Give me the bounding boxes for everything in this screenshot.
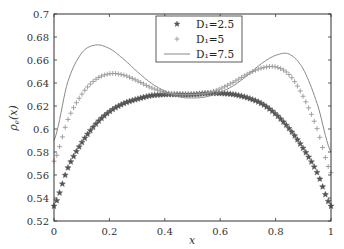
x-tick-label: 0.6 — [212, 226, 228, 237]
y-tick-label: 0.62 — [27, 101, 49, 112]
star-marker — [76, 144, 82, 150]
plus-marker — [102, 72, 107, 77]
star-marker — [325, 198, 331, 204]
plus-marker — [295, 84, 300, 89]
legend-label: D₁=5 — [196, 33, 224, 45]
x-tick-label: 0.4 — [157, 226, 173, 237]
y-tick-label: 0.7 — [33, 9, 49, 20]
line-chart: 00.20.40.60.810.520.540.560.580.60.620.6… — [0, 0, 344, 249]
y-tick-label: 0.56 — [27, 170, 49, 181]
star-marker — [303, 149, 309, 155]
plus-marker — [217, 87, 222, 92]
plus-marker — [77, 96, 82, 101]
star-marker — [317, 176, 323, 182]
y-tick-label: 0.52 — [27, 216, 49, 227]
plus-marker — [317, 135, 322, 140]
plus-marker — [121, 73, 126, 78]
plus-marker — [312, 119, 317, 124]
y-tick-label: 0.54 — [27, 193, 49, 204]
plus-marker — [301, 94, 306, 99]
plus-marker — [65, 117, 70, 122]
plus-marker — [326, 164, 331, 169]
y-tick-label: 0.58 — [27, 147, 49, 158]
plus-marker — [105, 72, 110, 77]
plus-marker — [79, 92, 84, 97]
y-axis-label: ρe(x) — [7, 105, 21, 131]
x-tick-label: 0.2 — [101, 226, 117, 237]
y-tick-label: 0.6 — [33, 124, 49, 135]
plus-marker — [287, 72, 292, 77]
plus-marker — [82, 88, 87, 93]
star-marker — [314, 169, 320, 175]
legend-label: D₁=7.5 — [196, 48, 234, 60]
plus-marker — [57, 144, 62, 149]
x-axis-label: x — [189, 234, 196, 247]
plus-marker — [298, 88, 303, 93]
plus-marker — [315, 126, 320, 131]
plus-marker — [116, 71, 121, 76]
plus-marker — [124, 74, 129, 79]
plus-marker — [152, 87, 157, 92]
plus-marker — [63, 125, 68, 130]
plus-marker — [273, 64, 278, 69]
plus-marker — [119, 72, 124, 77]
plus-marker — [292, 79, 297, 84]
plus-marker — [275, 65, 280, 70]
plus-marker — [303, 99, 308, 104]
plus-marker — [91, 79, 96, 84]
star-marker — [322, 191, 328, 197]
y-tick-label: 0.66 — [27, 55, 49, 66]
plus-marker — [261, 65, 266, 70]
plus-marker — [219, 86, 224, 91]
series-layer — [51, 45, 334, 209]
plus-marker — [54, 153, 59, 158]
plus-marker — [88, 82, 93, 87]
plus-marker — [71, 105, 76, 110]
star-marker — [65, 165, 71, 171]
plus-marker — [149, 86, 154, 91]
plus-marker — [68, 111, 73, 116]
star-marker — [59, 181, 65, 187]
star-marker — [62, 172, 68, 178]
legend-label: D₁=2.5 — [196, 18, 234, 30]
star-marker — [306, 154, 312, 160]
plus-marker — [85, 84, 90, 89]
star-marker — [320, 184, 326, 190]
plus-marker — [74, 100, 79, 105]
plus-marker — [60, 134, 65, 139]
y-tick-label: 0.68 — [27, 32, 49, 43]
x-tick-label: 0.8 — [268, 226, 284, 237]
series-d1-2-5 — [51, 90, 334, 209]
plus-marker — [309, 112, 314, 117]
plus-marker — [306, 105, 311, 110]
legend: D₁=2.5D₁=5D₁=7.5 — [156, 16, 242, 62]
plus-marker — [323, 155, 328, 160]
series-d1-5 — [52, 64, 334, 175]
x-tick-label: 1 — [328, 226, 334, 237]
star-marker — [71, 153, 77, 159]
star-marker — [311, 164, 317, 170]
star-marker — [73, 148, 79, 154]
star-marker — [57, 190, 63, 196]
plus-marker — [289, 75, 294, 80]
plus-marker — [259, 66, 264, 71]
star-marker — [68, 159, 74, 165]
x-tick-label: 0 — [51, 226, 57, 237]
plus-marker — [127, 75, 132, 80]
star-marker — [308, 159, 314, 165]
y-tick-label: 0.64 — [27, 78, 49, 89]
svg-text:ρe(x): ρe(x) — [7, 105, 21, 131]
plus-marker — [320, 145, 325, 150]
